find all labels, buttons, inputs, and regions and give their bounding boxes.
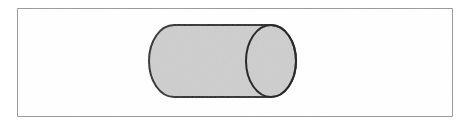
figure-canvas: [0, 0, 470, 123]
cylinder: [149, 25, 296, 97]
cylinder-figure-svg: [0, 0, 470, 123]
cylinder-body-outline: [149, 25, 296, 97]
